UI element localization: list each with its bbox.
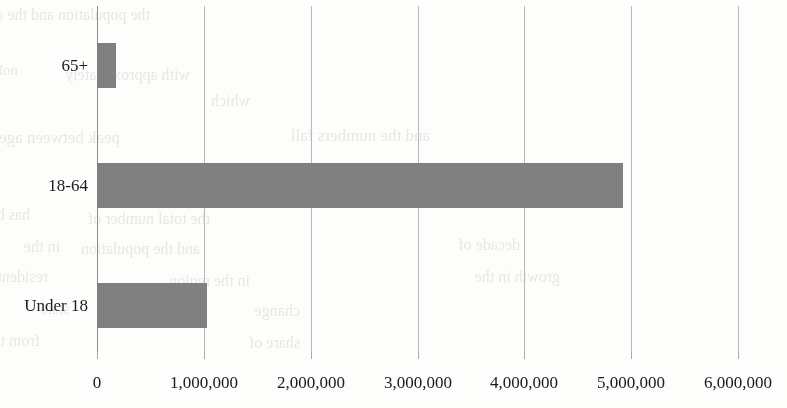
axis-tick — [204, 352, 205, 359]
x-axis-tick-label: 5,000,000 — [597, 373, 665, 393]
x-axis-tick-label: 6,000,000 — [704, 373, 772, 393]
axis-tick — [524, 352, 525, 359]
category-label: 18-64 — [0, 177, 88, 194]
category-label: Under 18 — [0, 297, 88, 314]
x-axis-tick-label: 0 — [93, 373, 102, 393]
gridline — [631, 6, 632, 352]
x-axis-tick-label: 2,000,000 — [277, 373, 345, 393]
axis-tick — [631, 352, 632, 359]
bar-chart: 01,000,0002,000,0003,000,0004,000,0005,0… — [0, 0, 787, 408]
bar — [97, 283, 207, 328]
x-axis-tick-label: 4,000,000 — [490, 373, 558, 393]
axis-tick — [418, 352, 419, 359]
x-axis-tick-label: 1,000,000 — [170, 373, 238, 393]
x-axis-tick-label: 3,000,000 — [384, 373, 452, 393]
gridline — [738, 6, 739, 352]
axis-tick — [311, 352, 312, 359]
bar — [97, 43, 116, 88]
axis-tick — [738, 352, 739, 359]
axis-tick — [97, 352, 98, 359]
bar — [97, 163, 623, 208]
category-label: 65+ — [0, 57, 88, 74]
